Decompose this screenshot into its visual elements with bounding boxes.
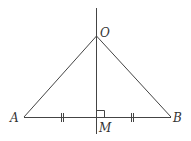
label-a: A [9, 111, 19, 125]
label-m: M [98, 121, 112, 135]
right-angle-mark [97, 111, 105, 118]
segment-ob [97, 36, 172, 117]
segment-oa [24, 36, 97, 117]
geometry-diagram: O A B M [0, 0, 191, 141]
label-o: O [100, 26, 110, 40]
label-b: B [172, 111, 182, 125]
